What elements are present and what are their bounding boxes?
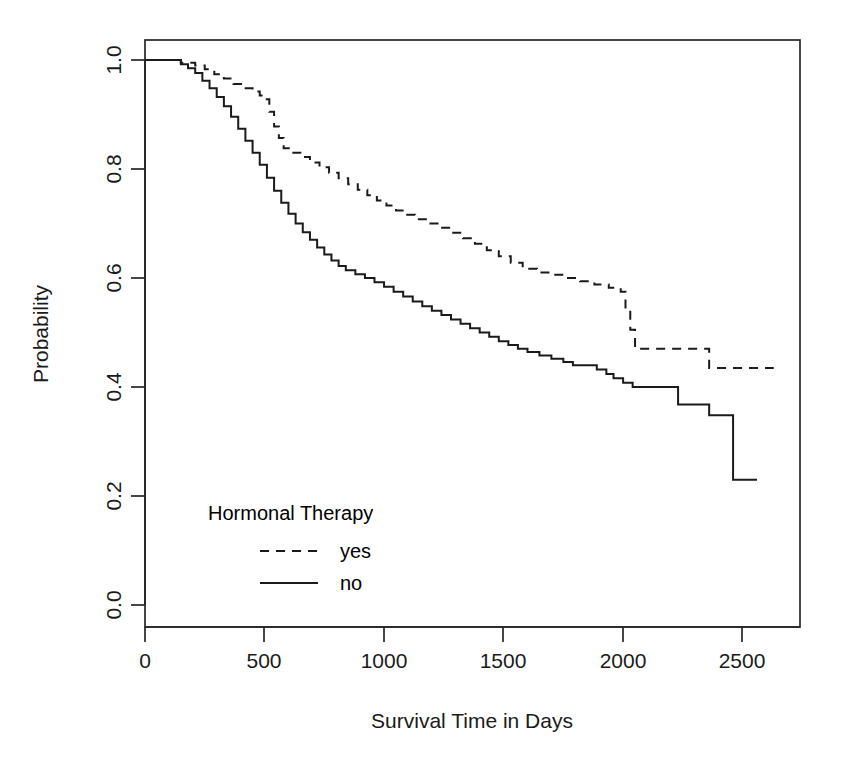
x-tick-label-2000: 2000 [600, 649, 647, 672]
y-axis-tick-labels: 1.0 0.8 0.6 0.4 0.2 0.0 [102, 45, 125, 619]
x-axis-ticks [145, 627, 742, 642]
x-tick-label-2500: 2500 [719, 649, 766, 672]
y-tick-label-0.0: 0.0 [102, 590, 125, 619]
plot-canvas: 1.0 0.8 0.6 0.4 0.2 0.0 Probability 0 [0, 0, 841, 769]
kaplan-meier-figure: 1.0 0.8 0.6 0.4 0.2 0.0 Probability 0 [0, 0, 841, 769]
y-tick-label-0.8: 0.8 [102, 154, 125, 183]
y-tick-label-0.4: 0.4 [102, 372, 125, 402]
x-tick-label-500: 500 [246, 649, 281, 672]
legend-item-no: no [260, 572, 362, 594]
legend-label-yes: yes [340, 540, 371, 562]
y-axis-title: Probability [29, 284, 52, 383]
x-axis-tick-labels: 0 500 1000 1500 2000 2500 [139, 649, 765, 672]
survival-curve-no [145, 60, 757, 480]
legend-title: Hormonal Therapy [208, 502, 373, 524]
survival-curves [145, 60, 774, 480]
y-tick-label-0.2: 0.2 [102, 481, 125, 510]
legend-label-no: no [340, 572, 362, 594]
y-axis-ticks [131, 60, 145, 605]
survival-curve-yes [145, 60, 774, 368]
y-tick-label-0.6: 0.6 [102, 263, 125, 292]
y-axis: 1.0 0.8 0.6 0.4 0.2 0.0 Probability [29, 45, 146, 619]
x-tick-label-1500: 1500 [480, 649, 527, 672]
x-tick-label-1000: 1000 [361, 649, 408, 672]
x-axis: 0 500 1000 1500 2000 2500 Survival Time … [139, 627, 800, 732]
legend-item-yes: yes [260, 540, 371, 562]
y-tick-label-1.0: 1.0 [102, 45, 125, 74]
legend: Hormonal Therapy yes no [208, 502, 373, 594]
x-tick-label-0: 0 [139, 649, 151, 672]
x-axis-title: Survival Time in Days [371, 709, 573, 732]
